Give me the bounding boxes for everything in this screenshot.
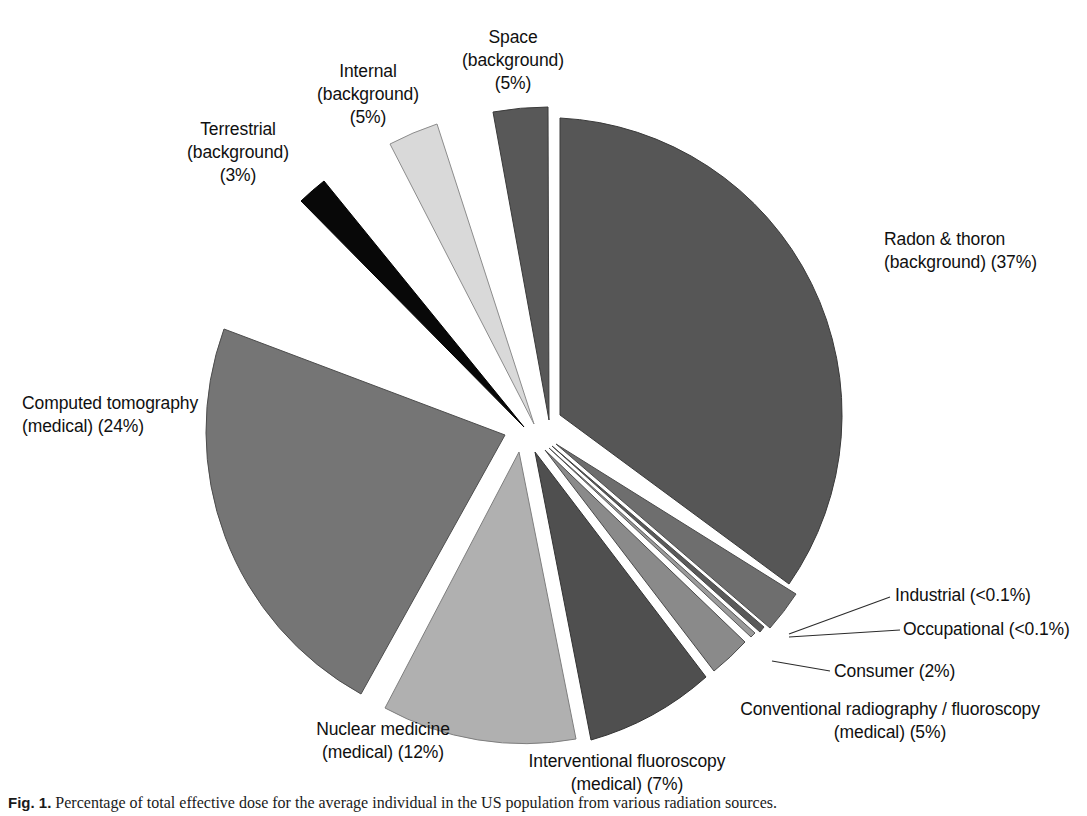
label-interventional-fluoroscopy: Interventional fluoroscopy (medical) (7%… bbox=[502, 750, 752, 796]
label-interventional-fluoroscopy-line1: Interventional fluoroscopy bbox=[502, 750, 752, 773]
label-conventional-radiography: Conventional radiography / fluoroscopy (… bbox=[710, 698, 1070, 744]
label-computed-tomography-line2: (medical) (24%) bbox=[22, 415, 272, 438]
slice-space[interactable] bbox=[493, 107, 549, 420]
label-conventional-radiography-line1: Conventional radiography / fluoroscopy bbox=[710, 698, 1070, 721]
label-nuclear-medicine-line1: Nuclear medicine bbox=[283, 718, 483, 741]
figure-canvas: Space (background) (5%) Internal (backgr… bbox=[0, 0, 1087, 816]
label-computed-tomography-line1: Computed tomography bbox=[22, 392, 272, 415]
label-internal-line1: Internal bbox=[278, 60, 458, 83]
label-internal-line2: (background) bbox=[278, 83, 458, 106]
label-space-line1: Space bbox=[428, 26, 598, 49]
leader-line-industrial bbox=[789, 597, 890, 634]
label-radon-thoron: Radon & thoron (background) (37%) bbox=[884, 228, 1084, 274]
label-radon-thoron-line1: Radon & thoron bbox=[884, 228, 1084, 251]
label-terrestrial-line2: (background) bbox=[148, 141, 328, 164]
label-nuclear-medicine-line2: (medical) (12%) bbox=[283, 741, 483, 764]
label-terrestrial-line1: Terrestrial bbox=[148, 118, 328, 141]
figure-caption: Fig. 1. Percentage of total effective do… bbox=[8, 793, 1079, 816]
figure-caption-text: Percentage of total effective dose for t… bbox=[51, 794, 777, 811]
label-terrestrial-line3: (3%) bbox=[148, 164, 328, 187]
label-occupational: Occupational (<0.1%) bbox=[903, 618, 1087, 641]
label-consumer-line1: Consumer (2%) bbox=[834, 660, 1034, 683]
leader-line-occupational bbox=[789, 630, 900, 637]
label-nuclear-medicine: Nuclear medicine (medical) (12%) bbox=[283, 718, 483, 764]
label-industrial: Industrial (<0.1%) bbox=[895, 584, 1087, 607]
label-conventional-radiography-line2: (medical) (5%) bbox=[710, 721, 1070, 744]
leader-line-consumer bbox=[772, 661, 830, 671]
label-terrestrial: Terrestrial (background) (3%) bbox=[148, 118, 328, 186]
label-computed-tomography: Computed tomography (medical) (24%) bbox=[22, 392, 272, 438]
label-radon-thoron-line2: (background) (37%) bbox=[884, 251, 1084, 274]
pie-slices bbox=[206, 107, 842, 744]
label-consumer: Consumer (2%) bbox=[834, 660, 1034, 683]
label-industrial-line1: Industrial (<0.1%) bbox=[895, 584, 1087, 607]
label-occupational-line1: Occupational (<0.1%) bbox=[903, 618, 1087, 641]
figure-caption-label: Fig. 1. bbox=[8, 794, 51, 811]
